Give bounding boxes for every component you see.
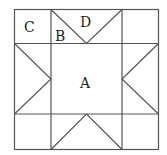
- left-star-point: [15, 44, 52, 115]
- label-b: B: [55, 28, 65, 44]
- bottom-star-point: [51, 114, 122, 150]
- right-star-point: [122, 44, 159, 115]
- label-a: A: [79, 75, 91, 91]
- label-c: C: [24, 19, 35, 35]
- quilt-block-diagram: C B D A: [0, 0, 167, 155]
- label-d: D: [80, 14, 91, 30]
